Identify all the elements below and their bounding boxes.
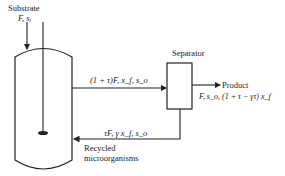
agitator-impeller-icon [38,131,48,135]
outlet-stream-label: (1 + τ)F, x_f, s_o [90,75,148,85]
separator-box [167,63,192,109]
product-title: Product [222,80,248,90]
substrate-title: Substrate [8,3,40,13]
substrate-stream: F, sᵢ [18,13,31,23]
product-stream: F, s_o, (1 + τ − γτ) x_f [199,92,271,102]
recycle-stream-label: τF, γ x_f, s_o [104,128,147,138]
recycle-label-line2: microorganisms [84,153,139,163]
recycle-label-line1: Recycled [84,143,116,153]
bioreactor-recycle-diagram: Substrate F, sᵢ (1 + τ)F, x_f, s_o Separ… [0,0,285,176]
separator-label: Separator [172,48,205,58]
